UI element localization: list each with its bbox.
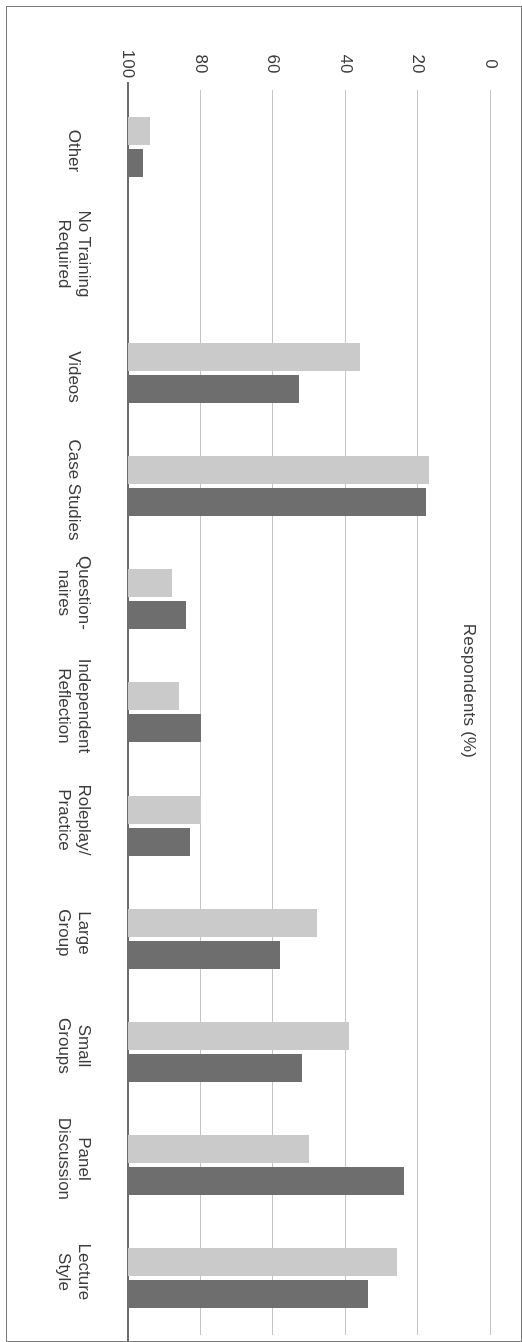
bar-msw <box>128 909 317 937</box>
bar-bsw <box>128 375 299 403</box>
bar-msw <box>128 117 150 145</box>
chart-legend: MSWBSW <box>11 581 51 781</box>
tick-label-0: 0 <box>481 41 501 87</box>
bar-bsw <box>128 828 190 856</box>
bar-msw <box>128 796 201 824</box>
bar-bsw <box>128 1280 368 1308</box>
bar-bsw <box>128 601 186 629</box>
tick-label-40: 40 <box>336 41 356 87</box>
tick-label-20: 20 <box>408 41 428 87</box>
tick-label-60: 60 <box>263 41 283 87</box>
chart-figure: Respondents (%) 020406080100 Lecture Sty… <box>0 0 522 1342</box>
tick-label-100: 100 <box>118 41 138 87</box>
tick-label-80: 80 <box>191 41 211 87</box>
bar-bsw <box>128 1054 302 1082</box>
bar-msw <box>128 456 429 484</box>
bar-msw <box>128 1135 310 1163</box>
bar-msw <box>128 1248 397 1276</box>
bar-msw <box>128 569 172 597</box>
plot-area <box>128 90 491 1335</box>
bar-bsw <box>128 1167 404 1195</box>
gridline-40 <box>345 90 346 1335</box>
category-label: Other <box>64 56 84 246</box>
bar-bsw <box>128 488 426 516</box>
bar-msw <box>128 1022 349 1050</box>
chart-frame: Respondents (%) 020406080100 Lecture Sty… <box>6 6 522 1342</box>
bar-bsw <box>128 149 143 177</box>
bar-msw <box>128 343 360 371</box>
gridline-0 <box>490 90 491 1335</box>
bar-bsw <box>128 715 201 743</box>
gridline-20 <box>417 90 418 1335</box>
bar-bsw <box>128 941 280 969</box>
bar-msw <box>128 683 179 711</box>
